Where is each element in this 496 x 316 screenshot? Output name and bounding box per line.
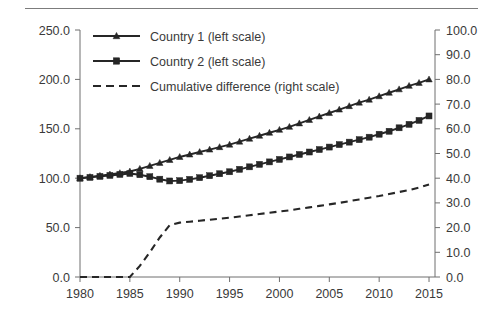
chart-figure: 0.050.0100.0150.0200.0250.0 0.010.020.03… — [0, 0, 496, 316]
data-point-marker — [296, 151, 302, 157]
data-point-marker — [127, 170, 133, 176]
y-axis-right-ticks — [435, 30, 440, 277]
y-right-tick-label: 90.0 — [446, 48, 470, 62]
legend-item: Cumulative difference (right scale) — [93, 80, 339, 94]
y-right-tick-label: 50.0 — [446, 147, 470, 161]
legend-swatch-square-marker — [113, 58, 119, 64]
data-point-marker — [87, 174, 93, 180]
y-right-tick-label: 80.0 — [446, 73, 470, 87]
legend-item: Country 1 (left scale) — [93, 30, 265, 44]
data-point-marker — [107, 172, 113, 178]
data-point-marker — [406, 121, 412, 127]
x-tick-label: 1990 — [166, 287, 194, 301]
y-right-tick-label: 20.0 — [446, 221, 470, 235]
data-point-marker — [346, 139, 352, 145]
series-path-3 — [80, 184, 429, 277]
x-axis-labels: 19801985199019952000200520102015 — [66, 287, 443, 301]
data-point-marker — [386, 128, 392, 134]
line-chart-canvas: 0.050.0100.0150.0200.0250.0 0.010.020.03… — [0, 0, 496, 316]
legend-item: Country 2 (left scale) — [93, 55, 265, 69]
y-left-tick-label: 0.0 — [53, 271, 70, 285]
data-point-marker — [207, 173, 213, 179]
data-point-marker — [117, 171, 123, 177]
data-point-marker — [266, 159, 272, 165]
x-tick-label: 1985 — [116, 287, 144, 301]
data-point-marker — [306, 149, 312, 155]
y-right-tick-label: 10.0 — [446, 246, 470, 260]
data-point-marker — [217, 171, 223, 177]
data-point-marker — [356, 137, 362, 143]
data-point-marker — [366, 134, 372, 140]
chart-legend: Country 1 (left scale)Country 2 (left sc… — [93, 30, 339, 94]
data-point-marker — [177, 178, 183, 184]
data-point-marker — [157, 176, 163, 182]
data-point-marker — [187, 176, 193, 182]
data-point-marker — [326, 144, 332, 150]
x-tick-label: 2000 — [266, 287, 294, 301]
data-point-marker — [137, 172, 143, 178]
y-right-tick-label: 60.0 — [446, 122, 470, 136]
x-axis-ticks — [80, 277, 429, 282]
y-axis-left-ticks — [75, 30, 80, 277]
y-left-tick-label: 250.0 — [39, 24, 70, 38]
data-point-marker — [276, 156, 282, 162]
y-axis-right-labels: 0.010.020.030.040.050.060.070.080.090.01… — [446, 24, 477, 285]
y-left-tick-label: 200.0 — [39, 73, 70, 87]
data-point-marker — [77, 175, 83, 181]
data-point-marker — [376, 131, 382, 137]
data-point-marker — [237, 166, 243, 172]
data-point-marker — [247, 164, 253, 170]
y-right-tick-label: 30.0 — [446, 196, 470, 210]
x-tick-label: 2010 — [365, 287, 393, 301]
data-point-marker — [97, 173, 103, 179]
x-tick-label: 1995 — [216, 287, 244, 301]
legend-item-label: Country 1 (left scale) — [150, 30, 265, 44]
y-left-tick-label: 100.0 — [39, 172, 70, 186]
data-point-marker — [426, 113, 432, 119]
x-tick-label: 2005 — [315, 287, 343, 301]
series-path-1 — [80, 79, 429, 178]
y-axis-left-labels: 0.050.0100.0150.0200.0250.0 — [39, 24, 70, 285]
data-point-marker — [286, 154, 292, 160]
data-point-marker — [336, 142, 342, 148]
y-right-tick-label: 100.0 — [446, 24, 477, 38]
data-point-marker — [416, 117, 422, 123]
data-point-marker — [256, 161, 262, 167]
data-point-marker — [316, 147, 322, 153]
data-point-marker — [197, 175, 203, 181]
data-point-marker — [426, 76, 432, 82]
series-layer — [77, 76, 432, 277]
data-point-marker — [147, 174, 153, 180]
y-left-tick-label: 50.0 — [46, 221, 70, 235]
x-tick-label: 2015 — [415, 287, 443, 301]
data-point-marker — [227, 169, 233, 175]
x-tick-label: 1980 — [66, 287, 94, 301]
legend-item-label: Cumulative difference (right scale) — [150, 80, 339, 94]
y-right-tick-label: 0.0 — [446, 271, 463, 285]
data-point-marker — [167, 178, 173, 184]
data-point-marker — [396, 125, 402, 131]
y-right-tick-label: 70.0 — [446, 98, 470, 112]
y-left-tick-label: 150.0 — [39, 122, 70, 136]
legend-item-label: Country 2 (left scale) — [150, 55, 265, 69]
y-right-tick-label: 40.0 — [446, 172, 470, 186]
